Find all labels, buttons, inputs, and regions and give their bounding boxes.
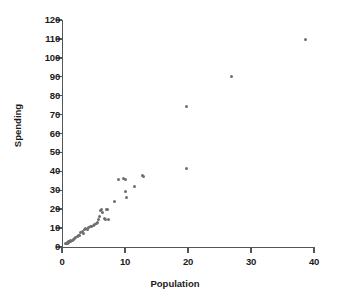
y-axis-title: Spending [12,86,23,166]
data-points-layer [0,0,350,299]
data-point [185,167,188,170]
data-point [117,178,120,181]
data-point [98,215,101,218]
scatter-chart: 0102030405060708090100110120 010203040 S… [0,0,350,299]
data-point [96,221,99,224]
data-point [230,75,233,78]
data-point [124,178,127,181]
data-point [304,38,307,41]
data-point [125,196,128,199]
data-point [124,190,127,193]
data-point [106,208,109,211]
data-point [101,211,104,214]
data-point [133,185,136,188]
data-point [97,218,100,221]
x-axis-title: Population [0,278,350,289]
data-point [82,232,85,235]
data-point [185,105,188,108]
data-point [142,175,145,178]
data-point [107,218,110,221]
data-point [78,234,81,237]
data-point [113,200,116,203]
